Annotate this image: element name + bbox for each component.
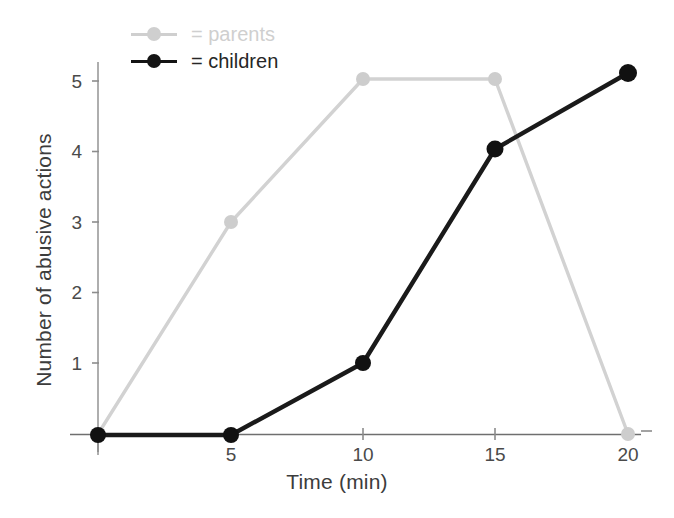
- series-parents: [92, 72, 636, 441]
- y-tick-label-5: 5: [52, 71, 82, 93]
- series-children: [90, 64, 637, 443]
- y-tick-label-3: 3: [52, 212, 82, 234]
- legend-marker-parents-icon: [131, 24, 177, 44]
- x-tick-label-10: 10: [343, 444, 383, 466]
- legend-label-children: = children: [191, 50, 278, 73]
- parents-point-5: [224, 215, 238, 229]
- y-tick-label-4: 4: [52, 141, 82, 163]
- parents-point-15: [488, 72, 502, 86]
- axis-lines: [70, 62, 641, 455]
- children-point-5: [223, 427, 239, 443]
- x-tick-label-15: 15: [475, 444, 515, 466]
- x-tick-label-20: 20: [608, 444, 648, 466]
- parents-point-20: [621, 427, 635, 441]
- children-line: [98, 73, 628, 435]
- legend-marker-children-icon: [131, 51, 177, 71]
- y-axis-title: Number of abusive actions: [32, 110, 56, 410]
- children-point-0: [90, 427, 106, 443]
- x-tick-label-5: 5: [211, 444, 251, 466]
- parents-point-10: [356, 72, 370, 86]
- line-chart: 5 4 3 2 1 5 10 15 20 Time (min) Number o…: [0, 0, 674, 518]
- parents-line: [98, 79, 628, 434]
- x-axis-title: Time (min): [0, 470, 674, 494]
- legend-item-children: = children: [131, 50, 278, 72]
- y-tick-label-2: 2: [52, 282, 82, 304]
- children-point-15: [487, 141, 504, 158]
- legend-item-parents: = parents: [131, 23, 275, 45]
- children-point-10: [355, 355, 371, 371]
- y-tick-label-1: 1: [52, 353, 82, 375]
- children-point-20: [619, 64, 637, 82]
- chart-canvas: [0, 0, 674, 518]
- legend-label-parents: = parents: [191, 23, 275, 46]
